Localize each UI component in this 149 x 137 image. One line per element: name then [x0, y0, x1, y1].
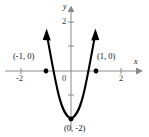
left-branch-arrowhead [43, 29, 51, 41]
root-right-point [94, 69, 99, 74]
root-left-annotation: (-1, 0) [13, 52, 34, 61]
coordinate-plane-svg [0, 0, 149, 137]
root-left-point [44, 69, 49, 74]
graph-figure: y x 2 0 -2 2 (-1, 0) (1, 0) (0, -2) [0, 0, 149, 137]
y-axis-arrowhead [68, 6, 75, 13]
root-right-annotation: (1, 0) [97, 52, 115, 61]
x-axis-label: x [134, 58, 138, 66]
x-axis-arrowhead [136, 68, 143, 75]
x-tick-label-neg-2: -2 [16, 74, 23, 83]
y-tick-label-2: 2 [62, 17, 66, 26]
y-axis-label: y [63, 3, 67, 11]
x-tick-label-2: 2 [119, 74, 123, 83]
vertex-annotation: (0, -2) [64, 124, 85, 133]
origin-label: 0 [62, 74, 66, 83]
vertex-point [69, 117, 74, 122]
right-branch-arrowhead [91, 29, 99, 41]
